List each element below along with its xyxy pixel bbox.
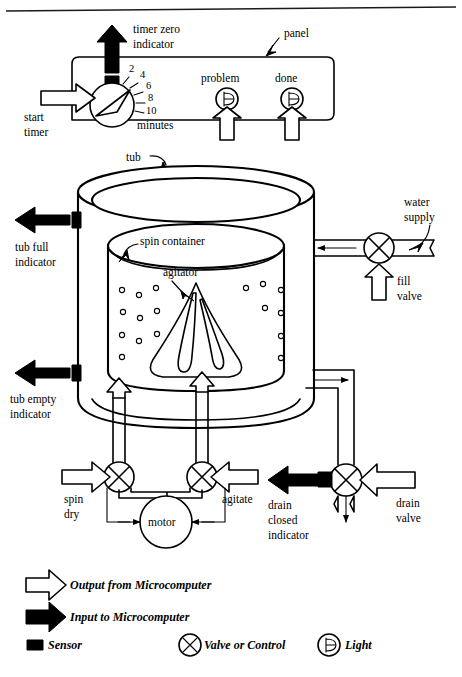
drain-closed-label-line2: closed (268, 514, 298, 526)
tub-full-input-arrow (15, 207, 70, 233)
start-timer-label-line2: timer (24, 126, 48, 138)
timer-tick-label-3: 8 (148, 92, 153, 103)
timer-tick-label-1: 4 (140, 69, 146, 80)
tub-full-sensor-icon (72, 212, 81, 228)
drain-outflow-pipe (334, 496, 354, 512)
timer-zero-input-arrow (97, 25, 127, 73)
spin-dry-label-line2: dry (64, 508, 80, 521)
timer-tick-label-4: 10 (146, 105, 157, 116)
legend-output-label: Output from Microcomputer (70, 578, 212, 592)
drain-closed-label-line3: indicator (268, 529, 309, 541)
diagram-page: panel timer zero indicator 2 4 6 (0, 0, 462, 677)
fill-valve-output-arrow[interactable] (365, 264, 393, 300)
tub-rim-inner (92, 178, 300, 222)
drain-closed-input-arrow (268, 466, 318, 494)
agitate-label: agitate (222, 493, 253, 506)
timer-zero-label-line1: timer zero (133, 23, 180, 35)
start-timer-label-line1: start (24, 111, 45, 123)
spin-container-label: spin container (140, 235, 205, 248)
tub-full-indicator: tub full indicator (15, 207, 81, 268)
start-timer-control[interactable]: start timer (24, 84, 95, 138)
water-supply-label-line1: water (404, 196, 430, 208)
legend-output-arrow-icon (26, 570, 66, 600)
timer-zero-indicator: timer zero indicator (97, 23, 180, 84)
tub-empty-sensor-icon (72, 365, 81, 381)
problem-light-label: problem (201, 72, 239, 85)
drain-valve-label-line2: valve (396, 512, 421, 524)
tub-full-label-line1: tub full (15, 241, 49, 253)
page-top-rule (6, 7, 456, 11)
legend-input-arrow-icon (26, 602, 66, 632)
legend-valve-label: Valve or Control (204, 638, 286, 652)
water-supply-leader-arrowhead (409, 243, 423, 252)
tub-empty-indicator: tub empty indicator (10, 360, 81, 420)
timer-minutes-label: minutes (137, 119, 174, 131)
panel-label: panel (284, 27, 309, 40)
water-supply-line: water supply fill valve (314, 196, 435, 302)
drain-valve-output-arrow[interactable] (360, 464, 415, 496)
tub-empty-label-line2: indicator (10, 408, 51, 420)
done-light: done (275, 72, 306, 140)
legend-sensor-icon (27, 640, 43, 650)
drain-closed-label-line1: drain (268, 499, 292, 511)
drain-pipe-outer (313, 370, 354, 465)
start-timer-output-arrow[interactable] (41, 84, 95, 112)
spin-container: spin container (108, 224, 284, 391)
legend: Output from Microcomputer Input to Micro… (26, 570, 372, 656)
legend-sensor-label: Sensor (48, 638, 82, 652)
water-supply-label-line2: supply (404, 211, 435, 224)
timer-zero-label-line2: indicator (133, 38, 174, 50)
tub-label: tub (126, 151, 141, 163)
fill-valve-label-line2: valve (397, 290, 422, 302)
agitator-label: agitator (163, 266, 198, 279)
legend-light-label: Light (344, 638, 372, 652)
done-light-label: done (275, 72, 297, 84)
fill-valve-label-line1: fill (397, 275, 410, 287)
problem-light: problem (201, 72, 241, 140)
water-supply-leader-line (418, 225, 430, 246)
tub-full-label-line2: indicator (15, 256, 56, 268)
motor-label: motor (148, 516, 176, 528)
panel-leader-arrowhead (266, 45, 276, 56)
drain-valve-label-line1: drain (396, 497, 420, 509)
timer-tick-label-2: 6 (146, 80, 151, 91)
spin-dry-label-line1: spin (64, 493, 83, 506)
spin-dry-output-arrow[interactable] (62, 462, 110, 492)
problem-light-output-arrow[interactable] (213, 107, 241, 140)
timer-tick-label-0: 2 (129, 63, 134, 74)
tub-empty-label-line1: tub empty (10, 393, 57, 406)
tub-empty-input-arrow (15, 360, 70, 386)
done-light-output-arrow[interactable] (278, 107, 306, 140)
agitate-output-arrow[interactable] (211, 462, 258, 492)
drain-closed-sensor-icon (318, 472, 332, 487)
legend-input-label: Input to Microcomputer (69, 610, 190, 624)
